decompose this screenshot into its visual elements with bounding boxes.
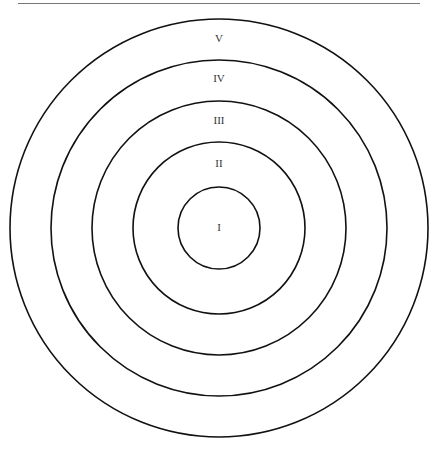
label-iv: IV (213, 72, 225, 84)
concentric-diagram: V IV III II I (0, 0, 435, 451)
label-i: I (217, 221, 221, 233)
label-iii: III (214, 114, 225, 126)
label-ii: II (215, 157, 223, 169)
label-v: V (215, 32, 223, 44)
